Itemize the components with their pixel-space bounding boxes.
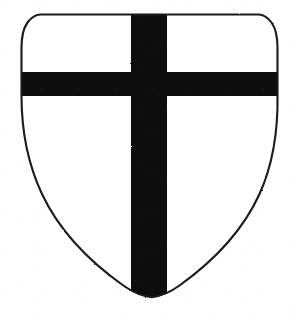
cross-vertical-bar [131, 10, 167, 300]
image-canvas: Argent, a cross sable [0, 0, 295, 319]
shield-illustration [0, 0, 295, 319]
